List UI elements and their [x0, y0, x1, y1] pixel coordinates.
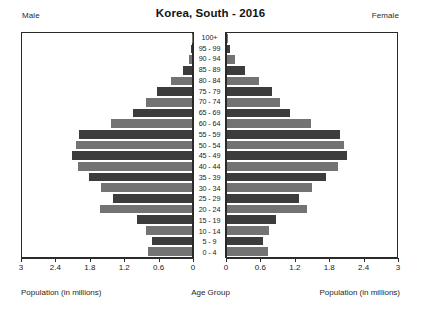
female-legend-label: Female: [372, 11, 399, 20]
bar-row: [22, 236, 192, 247]
axis-tick-label: 1.8: [324, 263, 335, 272]
axis-tick-label: 1.2: [119, 263, 130, 272]
female-axis-title: Population (in millions): [320, 288, 400, 297]
age-group-label: 0 - 4: [194, 247, 225, 258]
bar-row: [22, 172, 192, 183]
bar-row: [227, 140, 397, 151]
bar-row: [22, 214, 192, 225]
bar-row: [22, 33, 192, 44]
female-bar: [227, 226, 269, 235]
age-group-label: 65 - 69: [194, 107, 225, 118]
axis-tick-label: 0.6: [255, 263, 266, 272]
axis-tick: [295, 258, 296, 262]
bar-row: [227, 161, 397, 172]
axis-tick-label: 3: [396, 263, 400, 272]
bar-row: [227, 65, 397, 76]
bar-row: [227, 129, 397, 140]
axis-tick: [329, 258, 330, 262]
bar-row: [22, 86, 192, 97]
female-bar: [227, 98, 280, 107]
bar-row: [22, 150, 192, 161]
male-x-axis: 32.41.81.20.60: [21, 258, 193, 276]
age-group-axis: 100+95 - 9990 - 9485 - 8980 - 8475 - 797…: [193, 32, 226, 258]
age-group-label: 95 - 99: [194, 43, 225, 54]
age-group-label: 20 - 24: [194, 204, 225, 215]
axis-tick: [398, 258, 399, 262]
age-group-label: 35 - 39: [194, 172, 225, 183]
age-group-label: 25 - 29: [194, 193, 225, 204]
male-bar: [137, 215, 192, 224]
female-bar: [227, 130, 340, 139]
female-bar: [227, 119, 311, 128]
age-group-label: 50 - 54: [194, 140, 225, 151]
axis-tick: [90, 258, 91, 262]
bar-row: [227, 86, 397, 97]
male-bar: [101, 183, 192, 192]
male-bar: [148, 247, 192, 256]
axis-tick-label: 1.2: [289, 263, 300, 272]
bar-row: [227, 44, 397, 55]
axis-tick: [364, 258, 365, 262]
male-bar: [146, 226, 192, 235]
age-group-label: 80 - 84: [194, 75, 225, 86]
bar-row: [227, 118, 397, 129]
female-bar: [227, 55, 235, 64]
bar-row: [22, 65, 192, 76]
female-bar: [227, 237, 263, 246]
axis-tick-label: 1.8: [84, 263, 95, 272]
male-bar: [72, 151, 192, 160]
female-bar: [227, 162, 338, 171]
bar-row: [22, 108, 192, 119]
age-group-label: 100+: [194, 32, 225, 43]
age-group-label: 45 - 49: [194, 150, 225, 161]
population-pyramid-chart: Male Korea, South - 2016 Female 100+95 -…: [0, 0, 421, 315]
bar-row: [227, 172, 397, 183]
male-bar: [191, 45, 192, 54]
male-bar: [100, 205, 192, 214]
bar-row: [227, 246, 397, 257]
bar-row: [22, 44, 192, 55]
male-bar-rows: [22, 33, 192, 257]
male-bar: [76, 141, 192, 150]
bar-row: [22, 204, 192, 215]
bar-row: [22, 225, 192, 236]
bar-row: [22, 76, 192, 87]
male-bar: [79, 130, 192, 139]
bar-row: [227, 204, 397, 215]
axis-tick-label: 0: [224, 263, 228, 272]
axis-tick: [124, 258, 125, 262]
age-group-label: 30 - 34: [194, 183, 225, 194]
bar-row: [22, 161, 192, 172]
axis-tick-label: 2.4: [50, 263, 61, 272]
female-bar: [227, 66, 245, 75]
age-group-label: 55 - 59: [194, 129, 225, 140]
axis-tick-label: 0: [191, 263, 195, 272]
female-bar: [227, 77, 259, 86]
bar-row: [227, 182, 397, 193]
bar-row: [227, 54, 397, 65]
bar-row: [227, 225, 397, 236]
male-plot-area: [21, 32, 193, 258]
male-axis-line: [21, 258, 193, 259]
axis-tick-label: 0.6: [153, 263, 164, 272]
female-x-axis: 00.61.21.82.43: [226, 258, 398, 276]
bar-row: [227, 214, 397, 225]
age-group-label: 40 - 44: [194, 161, 225, 172]
male-bar: [189, 55, 192, 64]
female-bar: [227, 173, 326, 182]
male-bar: [157, 87, 192, 96]
bar-row: [227, 108, 397, 119]
axis-tick: [21, 258, 22, 262]
axis-tick-label: 3: [19, 263, 23, 272]
female-bar: [227, 194, 299, 203]
age-group-label: 75 - 79: [194, 86, 225, 97]
age-group-label: 60 - 64: [194, 118, 225, 129]
bar-row: [227, 193, 397, 204]
female-bar: [227, 183, 312, 192]
bar-row: [227, 150, 397, 161]
age-group-label: 10 - 14: [194, 226, 225, 237]
bar-row: [227, 33, 397, 44]
male-bar: [171, 77, 192, 86]
female-axis-line: [226, 258, 398, 259]
age-group-label: 70 - 74: [194, 97, 225, 108]
